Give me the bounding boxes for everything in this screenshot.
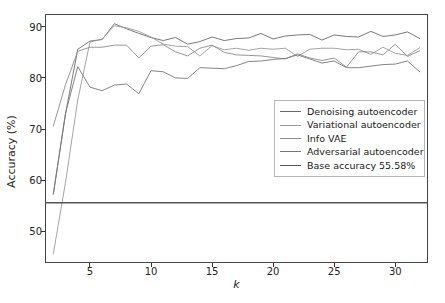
x-tick-mark [89, 263, 90, 267]
x-tick-label: 25 [328, 266, 341, 277]
legend-label: Base accuracy 55.58% [307, 161, 415, 171]
x-tick-mark [212, 263, 213, 267]
legend-label: Adversarial autoencoder [307, 147, 424, 157]
legend-swatch-icon [280, 138, 301, 139]
legend-item: Adversarial autoencoder [280, 145, 419, 158]
x-axis-label: k [45, 278, 428, 291]
legend-item: Variational autoencoder [280, 118, 419, 131]
x-tick-mark [334, 263, 335, 267]
legend-label: Variational autoencoder [307, 120, 421, 130]
legend: Denoising autoencoderVariational autoenc… [274, 100, 425, 177]
legend-item: Info VAE [280, 132, 419, 145]
legend-label: Info VAE [307, 134, 346, 144]
figure: Accuracy (%) 5060708090 51015202530 k De… [0, 0, 445, 303]
x-tick-label: 5 [87, 266, 93, 277]
x-tick-mark [395, 263, 396, 267]
legend-swatch-icon [280, 165, 301, 166]
legend-item: Denoising autoencoder [280, 105, 419, 118]
legend-item: Base accuracy 55.58% [280, 159, 419, 172]
x-tick-label: 10 [145, 266, 158, 277]
x-tick-mark [273, 263, 274, 267]
legend-swatch-icon [280, 151, 301, 152]
legend-swatch-icon [280, 125, 301, 126]
legend-swatch-icon [280, 111, 301, 112]
x-tick-label: 30 [389, 266, 402, 277]
x-tick-mark [151, 263, 152, 267]
x-tick-label: 15 [206, 266, 219, 277]
x-tick-label: 20 [267, 266, 280, 277]
legend-label: Denoising autoencoder [307, 107, 417, 117]
